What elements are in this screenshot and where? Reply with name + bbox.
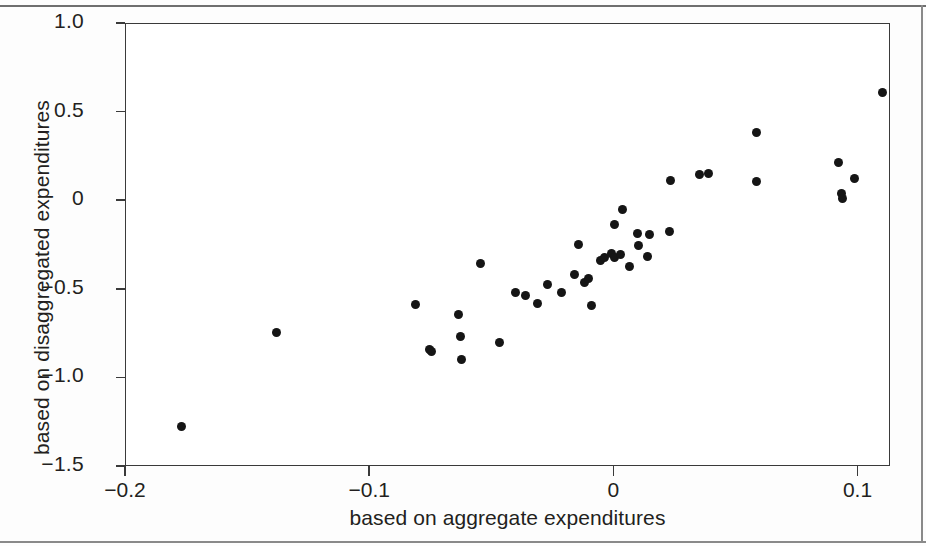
data-point: [587, 301, 596, 310]
y-axis-tick: [116, 22, 125, 24]
data-point: [634, 241, 643, 250]
x-axis-tick-label: −0.2: [85, 478, 165, 502]
x-axis-tick-label: 0.1: [818, 478, 898, 502]
data-point: [533, 299, 542, 308]
y-axis-title: based on disaggregated expenditures: [30, 100, 54, 455]
data-point: [838, 194, 847, 203]
data-point: [521, 291, 530, 300]
data-point: [511, 288, 520, 297]
x-axis-tick: [857, 466, 859, 476]
scatter-plot-figure: 1.00.50−0.5−1.0−1.5 −0.2−0.100.1 based o…: [0, 0, 926, 546]
x-axis-title: based on aggregate expenditures: [125, 506, 890, 530]
data-point: [557, 288, 566, 297]
data-point: [454, 310, 463, 319]
y-axis-tick: [116, 199, 125, 201]
data-point: [850, 174, 859, 183]
data-point: [570, 270, 579, 279]
y-axis-tick-label: −1.5: [41, 452, 84, 476]
y-axis-tick-label: 1.0: [54, 9, 84, 33]
data-point: [610, 220, 619, 229]
y-axis-tick-label: 0.5: [54, 98, 84, 122]
y-axis-tick: [116, 111, 125, 113]
data-point: [625, 262, 634, 271]
data-point: [476, 259, 485, 268]
data-point: [752, 128, 761, 137]
data-point: [752, 177, 761, 186]
data-point: [645, 230, 654, 239]
data-point: [427, 347, 436, 356]
data-point: [878, 88, 887, 97]
data-point: [695, 170, 704, 179]
data-point: [411, 300, 420, 309]
data-point: [543, 280, 552, 289]
data-point: [704, 169, 713, 178]
data-point: [272, 328, 281, 337]
x-axis-tick-label: −0.1: [329, 478, 409, 502]
y-axis-tick-label: 0: [72, 186, 84, 210]
data-point: [457, 355, 466, 364]
data-point: [666, 176, 675, 185]
x-axis-tick-label: 0: [573, 478, 653, 502]
x-axis-tick: [613, 466, 615, 476]
data-point: [643, 252, 652, 261]
x-axis-tick: [368, 466, 370, 476]
data-point: [584, 274, 593, 283]
plot-area: [125, 23, 890, 466]
data-point: [616, 250, 625, 259]
data-point: [177, 422, 186, 431]
y-axis-tick: [116, 377, 125, 379]
data-point: [665, 227, 674, 236]
data-point: [456, 332, 465, 341]
y-axis-tick: [116, 288, 125, 290]
data-point: [495, 338, 504, 347]
data-point: [633, 229, 642, 238]
x-axis-tick: [124, 466, 126, 476]
figure-page: 1.00.50−0.5−1.0−1.5 −0.2−0.100.1 based o…: [0, 0, 926, 546]
data-point: [834, 158, 843, 167]
data-point: [618, 205, 627, 214]
data-point: [574, 240, 583, 249]
